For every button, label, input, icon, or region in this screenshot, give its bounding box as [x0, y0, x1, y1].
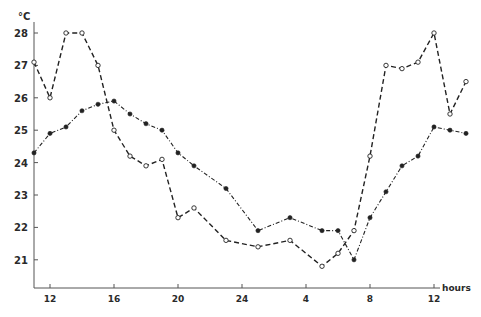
open-data-point — [192, 206, 196, 210]
filled-data-point — [256, 229, 260, 233]
axes: °C hours — [18, 11, 471, 293]
x-tick-label: 8 — [367, 294, 373, 304]
filled-data-point — [368, 216, 372, 220]
open-data-point — [320, 264, 324, 268]
x-tick-label: 16 — [108, 294, 121, 304]
y-tick-label: 28 — [14, 28, 28, 39]
filled-data-point — [224, 186, 228, 190]
open-data-point — [368, 154, 372, 158]
open-data-point — [352, 228, 356, 232]
open-data-point — [432, 31, 436, 35]
y-tick-label: 22 — [14, 222, 28, 233]
y-tick-label: 23 — [14, 190, 28, 201]
filled-data-point — [464, 131, 468, 135]
filled-data-point — [48, 131, 52, 135]
filled-data-point — [112, 99, 116, 103]
series-filled-circles — [32, 99, 468, 262]
open-data-point — [384, 63, 388, 67]
open-data-point — [448, 112, 452, 116]
filled-data-point — [144, 122, 148, 126]
open-data-point — [64, 31, 68, 35]
open-data-point — [464, 79, 468, 83]
filled-data-point — [352, 258, 356, 262]
open-data-point — [160, 157, 164, 161]
filled-data-point — [128, 112, 132, 116]
open-data-point — [32, 60, 36, 64]
open-data-point — [416, 60, 420, 64]
filled-data-point — [32, 151, 36, 155]
filled-data-point — [336, 229, 340, 233]
x-tick-label: 12 — [44, 294, 57, 304]
filled-data-point — [64, 125, 68, 129]
filled-data-point — [432, 125, 436, 129]
filled-data-point — [80, 109, 84, 113]
y-tick-label: 27 — [14, 60, 28, 71]
x-ticks: 121620244812 — [44, 284, 441, 304]
filled-data-point — [320, 229, 324, 233]
open-data-point — [288, 238, 292, 242]
filled-data-point — [176, 151, 180, 155]
open-data-point — [80, 31, 84, 35]
y-tick-label: 21 — [14, 255, 28, 266]
open-data-point — [176, 215, 180, 219]
open-data-point — [128, 154, 132, 158]
open-data-point — [256, 245, 260, 249]
data-series — [32, 31, 468, 269]
x-tick-label: 24 — [236, 294, 249, 304]
filled-data-point — [288, 216, 292, 220]
open-data-point — [48, 96, 52, 100]
filled-data-point — [96, 102, 100, 106]
filled-data-point — [400, 164, 404, 168]
y-tick-label: 24 — [14, 158, 28, 169]
y-axis-unit-label: °C — [18, 11, 30, 22]
y-tick-label: 25 — [14, 125, 28, 136]
temperature-line-chart: °C hours 2122232425262728 121620244812 — [0, 0, 481, 317]
y-tick-label: 26 — [14, 93, 28, 104]
series-line — [34, 101, 466, 260]
open-data-point — [336, 251, 340, 255]
filled-data-point — [448, 128, 452, 132]
open-data-point — [400, 66, 404, 70]
filled-data-point — [384, 190, 388, 194]
open-data-point — [96, 63, 100, 67]
x-tick-label: 20 — [172, 294, 185, 304]
filled-data-point — [160, 128, 164, 132]
x-axis-unit-label: hours — [442, 283, 471, 293]
open-data-point — [112, 128, 116, 132]
filled-data-point — [192, 164, 196, 168]
open-data-point — [224, 238, 228, 242]
x-tick-label: 12 — [428, 294, 441, 304]
series-open-circles — [32, 31, 468, 269]
chart-canvas: °C hours 2122232425262728 121620244812 — [0, 0, 481, 317]
x-tick-label: 4 — [303, 294, 309, 304]
open-data-point — [144, 164, 148, 168]
filled-data-point — [416, 154, 420, 158]
